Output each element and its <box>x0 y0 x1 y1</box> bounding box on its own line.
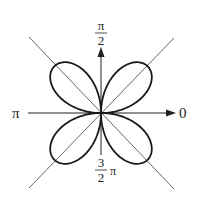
label-3-over-2-numerator: 3 <box>98 155 105 170</box>
label-3-over-2-denominator: 2 <box>98 170 105 185</box>
arrow-up-icon <box>98 47 105 57</box>
label-pi: π <box>12 105 20 121</box>
polar-rose-plot: 0 π π 2 3 2 π <box>0 0 197 200</box>
label-zero: 0 <box>179 105 187 121</box>
label-pi-over-2-numerator: π <box>98 18 105 33</box>
arrow-right-icon <box>166 110 176 117</box>
label-3-over-2-pi-suffix: π <box>110 164 116 178</box>
label-pi-over-2-denominator: 2 <box>98 33 105 48</box>
